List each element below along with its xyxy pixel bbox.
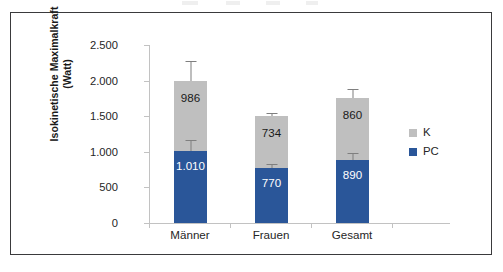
bar-segment-k[interactable]: 734 xyxy=(255,116,288,168)
x-axis-tick xyxy=(311,223,312,228)
error-bar-cap xyxy=(185,61,196,62)
x-axis-tick xyxy=(149,223,150,228)
bar-frauen[interactable]: 734 770 xyxy=(255,116,288,223)
bar-segment-k[interactable]: 860 xyxy=(336,98,369,159)
legend-swatch-k-icon xyxy=(409,129,417,137)
bar-value-label-k: 734 xyxy=(255,127,288,139)
bar-segment-pc[interactable]: 890 xyxy=(336,160,369,223)
y-axis-tick-label: 2.500 xyxy=(48,40,118,51)
error-bar-pc xyxy=(190,140,191,151)
bar-segment-pc[interactable]: 1.010 xyxy=(174,151,207,223)
scan-artifact xyxy=(306,1,318,5)
y-axis-tick-label: 500 xyxy=(48,182,118,193)
scan-artifact xyxy=(266,1,280,5)
x-axis-category-label-frauen: Frauen xyxy=(226,229,316,241)
bar-value-label-k: 986 xyxy=(174,92,207,104)
error-bar-k xyxy=(190,61,191,81)
bar-value-label-pc: 1.010 xyxy=(174,160,207,172)
error-bar-pc xyxy=(271,164,272,168)
x-axis-category-label-maenner: Männer xyxy=(145,229,235,241)
scan-artifact xyxy=(182,1,198,5)
y-axis-line xyxy=(149,45,150,223)
bar-gesamt[interactable]: 860 890 xyxy=(336,98,369,223)
x-axis-tick xyxy=(230,223,231,228)
error-bar-cap xyxy=(347,153,358,154)
y-axis-tick-label: 0 xyxy=(48,218,118,229)
error-bar-pc xyxy=(352,153,353,160)
y-axis-tick-label: 2.000 xyxy=(48,76,118,87)
y-axis-tick xyxy=(144,187,150,188)
y-axis-tick xyxy=(144,152,150,153)
x-axis-tick xyxy=(392,223,393,228)
legend-swatch-pc-icon xyxy=(409,148,417,156)
bar-value-label-pc: 890 xyxy=(336,169,369,181)
bar-maenner[interactable]: 986 1.010 xyxy=(174,81,207,223)
y-axis-tick xyxy=(144,45,150,46)
bar-segment-pc[interactable]: 770 xyxy=(255,168,288,223)
bar-value-label-pc: 770 xyxy=(255,177,288,189)
chart-legend: K PC xyxy=(409,123,439,161)
y-axis-tick-label: 1.000 xyxy=(48,147,118,158)
legend-item-pc[interactable]: PC xyxy=(409,142,439,161)
error-bar-k xyxy=(271,113,272,116)
legend-label-pc: PC xyxy=(423,146,439,157)
error-bar-cap xyxy=(185,140,196,141)
error-bar-k xyxy=(352,89,353,99)
bar-value-label-k: 860 xyxy=(336,109,369,121)
x-axis-category-label-gesamt: Gesamt xyxy=(307,229,397,241)
chart-plot-area: Isokinetische Maximalkraft (Watt) 2.500 … xyxy=(11,13,493,256)
y-axis-tick xyxy=(144,81,150,82)
x-axis-line xyxy=(149,223,450,224)
error-bar-cap xyxy=(266,164,277,165)
y-axis-tick-label: 1.500 xyxy=(48,111,118,122)
figure-frame: Isokinetische Maximalkraft (Watt) 2.500 … xyxy=(10,12,492,255)
legend-label-k: K xyxy=(423,127,431,138)
y-axis-tick xyxy=(144,116,150,117)
error-bar-cap xyxy=(347,89,358,90)
error-bar-cap xyxy=(266,113,277,114)
scan-artifact xyxy=(226,1,240,5)
legend-item-k[interactable]: K xyxy=(409,123,439,142)
